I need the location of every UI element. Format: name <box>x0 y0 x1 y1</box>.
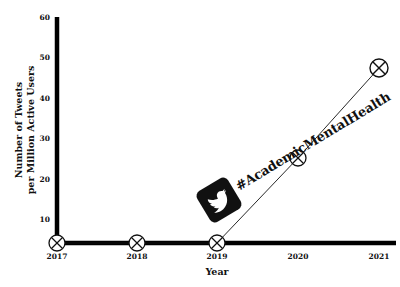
data-point-2017[interactable] <box>49 235 65 251</box>
chart-figure: 60 50 40 30 20 10 2017 2018 2019 2020 20… <box>0 0 400 287</box>
x-tick-label-2019: 2019 <box>207 252 228 261</box>
x-axis-title: Year <box>204 266 229 277</box>
y-tick-label-20: 20 <box>40 175 50 184</box>
data-point-2018[interactable] <box>129 235 145 251</box>
y-tick-label-60: 60 <box>40 13 50 22</box>
x-tick-label-2018: 2018 <box>127 252 148 261</box>
y-tick-label-50: 50 <box>40 53 50 62</box>
data-point-2019[interactable] <box>209 235 225 251</box>
data-point-2021[interactable] <box>370 59 388 77</box>
y-axis-title-line1: Number of Tweets <box>13 82 24 178</box>
y-axis-title-line2: per Million Active Users <box>25 66 36 195</box>
y-tick-label-30: 30 <box>40 134 50 143</box>
x-tick-label-2020: 2020 <box>288 252 309 261</box>
y-tick-label-40: 40 <box>40 94 50 103</box>
chart-canvas: 60 50 40 30 20 10 2017 2018 2019 2020 20… <box>0 0 400 287</box>
x-tick-label-2021: 2021 <box>369 252 390 261</box>
x-tick-label-2017: 2017 <box>47 252 68 261</box>
y-tick-label-10: 10 <box>40 215 50 224</box>
